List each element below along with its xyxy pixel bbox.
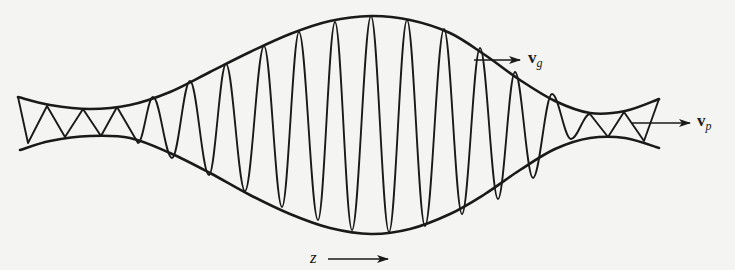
group-velocity-label: vg xyxy=(528,48,543,71)
wave-packet-diagram xyxy=(0,0,735,270)
carrier-wave xyxy=(18,16,659,232)
envelope-lower xyxy=(20,136,659,234)
group-velocity-subscript: g xyxy=(537,56,543,70)
group-velocity-symbol: v xyxy=(528,48,537,67)
z-axis-label: z xyxy=(310,248,317,268)
envelope-upper xyxy=(18,16,659,114)
phase-velocity-label: vp xyxy=(697,111,712,134)
phase-velocity-symbol: v xyxy=(697,111,706,130)
phase-velocity-subscript: p xyxy=(706,119,712,133)
